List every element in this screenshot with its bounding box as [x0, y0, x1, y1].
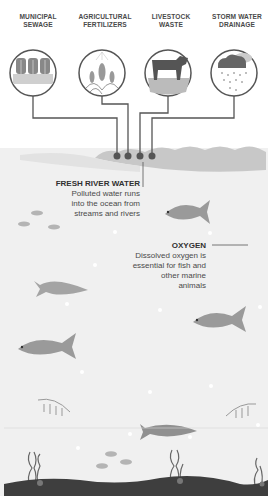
oxygen-description: Dissolved oxygen is essential for fish a…: [100, 251, 206, 291]
cow-icon: [145, 50, 191, 96]
rain-cloud-icon: [211, 50, 257, 96]
fresh-river-water-description: Polluted water runs into the ocean from …: [40, 189, 140, 219]
oxygen-title: OXYGEN: [110, 241, 206, 250]
text-line: essential for fish and: [100, 261, 206, 271]
text-line: into the ocean from: [40, 199, 140, 209]
pollution-pipes: [33, 92, 234, 156]
crop-spray-icon: [79, 50, 125, 96]
fresh-river-water-title: FRESH RIVER WATER: [40, 179, 140, 188]
text-line: Polluted water runs: [40, 189, 140, 199]
text-line: animals: [100, 281, 206, 291]
text-line: other marine: [100, 271, 206, 281]
sewage-plant-icon: [10, 50, 56, 96]
text-line: Dissolved oxygen is: [100, 251, 206, 261]
text-line: streams and rivers: [40, 209, 140, 219]
